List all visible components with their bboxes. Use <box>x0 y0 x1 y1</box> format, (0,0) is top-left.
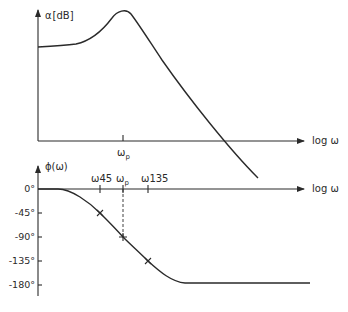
phase-curve <box>38 189 310 283</box>
omega-45-label: ω45 <box>91 173 112 184</box>
phase-x-label: log ω <box>312 183 339 194</box>
magnitude-x-label: log ω <box>312 135 339 146</box>
omega-p-label-upper: ωp <box>117 147 130 161</box>
bode-diagram: α[dB] log ω ωp ϕ(ω) log ω <box>0 0 348 312</box>
omega-p-label-lower: ωp <box>116 173 129 187</box>
phase-tick-90: -90° <box>15 231 35 242</box>
phase-plot: ϕ(ω) log ω 0° -45° -90° -135° -180° ω45 <box>9 161 339 296</box>
magnitude-y-label: α[dB] <box>45 10 74 21</box>
omega-135-label: ω135 <box>141 173 168 184</box>
phase-tick-180: -180° <box>9 279 35 290</box>
phase-y-label: ϕ(ω) <box>45 161 68 172</box>
phase-tick-45: -45° <box>15 207 35 218</box>
magnitude-curve <box>38 11 258 178</box>
magnitude-plot: α[dB] log ω ωp <box>38 10 339 178</box>
phase-y-ticks <box>38 213 42 285</box>
phase-tick-0: 0° <box>24 183 35 194</box>
phase-tick-135: -135° <box>9 255 35 266</box>
